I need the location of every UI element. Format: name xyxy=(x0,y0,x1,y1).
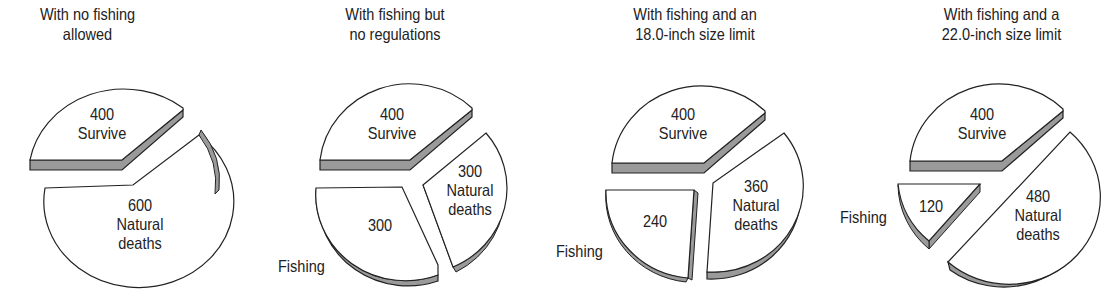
natural-deaths-label: 480 Natural deaths xyxy=(1012,187,1065,244)
natural-text: deaths xyxy=(444,200,497,219)
fishing-label: Fishing xyxy=(556,242,603,261)
survive-value: 400 xyxy=(76,105,129,124)
fishing-label: Fishing xyxy=(840,208,887,227)
survive-text: Survive xyxy=(366,124,419,143)
natural-deaths-label: 600 Natural deaths xyxy=(114,196,167,253)
survive-text: Survive xyxy=(956,124,1009,143)
fishing-value: 120 xyxy=(909,197,953,216)
natural-value: 480 xyxy=(1012,187,1065,206)
slice-fishing xyxy=(898,184,980,249)
natural-text: Natural xyxy=(1012,206,1065,225)
survive-text: Survive xyxy=(657,124,710,143)
fishing-value-label: 240 xyxy=(633,212,677,231)
natural-text: Natural xyxy=(114,215,167,234)
slice-fishing xyxy=(606,190,698,282)
survive-label: 400 Survive xyxy=(76,105,129,143)
survive-value: 400 xyxy=(366,105,419,124)
natural-text: deaths xyxy=(1012,225,1065,244)
survive-label: 400 Survive xyxy=(956,105,1009,143)
survive-value: 400 xyxy=(657,105,710,124)
natural-value: 360 xyxy=(730,177,783,196)
fishing-value-label: 300 xyxy=(358,216,402,235)
fishing-label: Fishing xyxy=(278,257,325,276)
natural-text: deaths xyxy=(114,234,167,253)
natural-text: Natural xyxy=(730,196,783,215)
pie-panel-no-regulations: With fishing but no regulations 400 Surv… xyxy=(270,0,550,299)
fishing-value-label: 120 xyxy=(909,197,953,216)
pie-panel-no-fishing: With no fishing allowed 400 Survive 600 … xyxy=(0,0,280,299)
pie-panel-18-inch-limit: With fishing and an 18.0-inch size limit… xyxy=(550,0,840,299)
pie-graphic xyxy=(270,0,550,299)
natural-deaths-label: 300 Natural deaths xyxy=(444,162,497,219)
pie-panel-22-inch-limit: With fishing and a 22.0-inch size limit … xyxy=(830,0,1113,299)
natural-text: deaths xyxy=(730,215,783,234)
natural-value: 300 xyxy=(444,162,497,181)
fishing-value: 240 xyxy=(633,212,677,231)
natural-value: 600 xyxy=(114,196,167,215)
fishing-value: 300 xyxy=(358,216,402,235)
survive-label: 400 Survive xyxy=(366,105,419,143)
pie-graphic xyxy=(0,0,280,299)
natural-text: Natural xyxy=(444,181,497,200)
slice-fishing xyxy=(316,187,438,286)
survive-text: Survive xyxy=(76,124,129,143)
survive-value: 400 xyxy=(956,105,1009,124)
natural-deaths-label: 360 Natural deaths xyxy=(730,177,783,234)
survive-label: 400 Survive xyxy=(657,105,710,143)
pie-graphic xyxy=(830,0,1113,299)
